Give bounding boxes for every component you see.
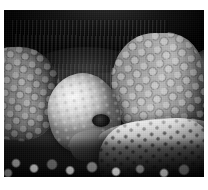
tortoise-photograph: [4, 10, 204, 177]
tortoise-eye: [92, 114, 110, 127]
ground-rubble: [4, 144, 204, 177]
photo-frame: [0, 0, 208, 190]
